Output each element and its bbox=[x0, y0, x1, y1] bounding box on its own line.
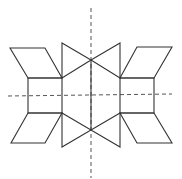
horizontal-symmetry-axis bbox=[8, 94, 172, 96]
right-bottom-triangle bbox=[91, 113, 120, 147]
symmetry-figure bbox=[0, 0, 182, 179]
right-square bbox=[120, 78, 154, 113]
right-top-triangle bbox=[91, 43, 120, 78]
left-top-parallelogram bbox=[10, 48, 62, 78]
left-bottom-parallelogram bbox=[11, 113, 62, 143]
right-bottom-parallelogram bbox=[120, 113, 172, 143]
left-top-triangle bbox=[62, 43, 91, 78]
left-bottom-triangle bbox=[62, 113, 91, 147]
right-top-parallelogram bbox=[120, 47, 172, 78]
